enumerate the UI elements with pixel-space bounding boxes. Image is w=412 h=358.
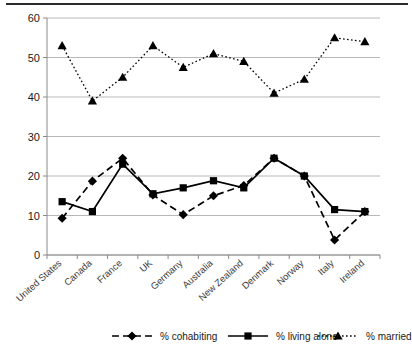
svg-text:50: 50 [28, 52, 40, 64]
svg-text:20: 20 [28, 170, 40, 182]
marker-square [210, 177, 217, 184]
legend-marker-square [244, 332, 251, 339]
svg-text:0: 0 [34, 249, 40, 261]
marker-diamond [209, 191, 218, 200]
chart-legend: % cohabiting% living alone% married [112, 331, 412, 342]
marker-triangle [330, 33, 339, 41]
marker-square [59, 198, 66, 205]
series-line-1 [62, 158, 365, 211]
x-tick-label: France [95, 257, 124, 285]
y-axis-group: 0102030405060 [28, 12, 47, 261]
svg-text:10: 10 [28, 210, 40, 222]
svg-text:40: 40 [28, 91, 40, 103]
marker-square [301, 172, 308, 179]
marker-triangle [179, 63, 188, 71]
legend-label: % cohabiting [160, 331, 217, 342]
marker-square [149, 190, 156, 197]
x-tick-label: Ireland [337, 257, 366, 285]
top-divider-rule [6, 3, 408, 5]
marker-square [119, 161, 126, 168]
marker-diamond [179, 210, 188, 219]
x-axis-tick-labels: United StatesCanadaFranceUKGermanyAustra… [14, 257, 366, 304]
marker-square [331, 206, 338, 213]
marker-diamond [88, 177, 97, 186]
x-tick-label: United States [14, 257, 64, 304]
marker-triangle [88, 96, 97, 104]
legend-label: % living alone [276, 331, 338, 342]
marker-square [361, 208, 368, 215]
svg-text:30: 30 [28, 131, 40, 143]
svg-text:60: 60 [28, 12, 40, 24]
x-tick-label: Norway [274, 257, 305, 287]
series-lines-group [62, 38, 365, 240]
marker-triangle [239, 57, 248, 65]
marker-square [89, 208, 96, 215]
legend-marker-diamond [127, 331, 136, 340]
marker-square [240, 184, 247, 191]
x-tick-label: Germany [148, 257, 185, 291]
marker-triangle [148, 41, 157, 49]
x-tick-label: UK [137, 257, 155, 274]
marker-triangle [118, 73, 127, 81]
x-tick-label: Italy [316, 257, 336, 277]
series-line-2 [62, 38, 365, 101]
x-tick-label: Denmark [239, 257, 275, 291]
marker-triangle [58, 41, 67, 49]
marker-triangle [209, 49, 218, 57]
x-tick-label: Canada [62, 257, 95, 288]
marker-square [270, 155, 277, 162]
marker-square [180, 184, 187, 191]
marker-triangle [269, 88, 278, 96]
line-chart: 0102030405060 United StatesCanadaFranceU… [0, 0, 412, 358]
marker-triangle [360, 37, 369, 45]
chart-figure: 0102030405060 United StatesCanadaFranceU… [0, 0, 412, 358]
legend-label: % married [366, 331, 412, 342]
